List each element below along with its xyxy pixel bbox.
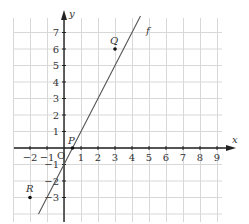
x-axis-label: x bbox=[232, 134, 238, 145]
x-tick-label: 8 bbox=[197, 152, 203, 163]
point-p-label: P bbox=[67, 135, 75, 146]
y-tick-label: 2 bbox=[53, 110, 59, 121]
point-q bbox=[113, 47, 117, 51]
origin-label: O bbox=[57, 150, 65, 161]
x-tick-label: 6 bbox=[163, 152, 169, 163]
x-tick-label: 7 bbox=[180, 152, 186, 163]
x-tick-label: 2 bbox=[95, 152, 101, 163]
y-tick-label: −2 bbox=[44, 176, 59, 187]
y-tick-label: 5 bbox=[53, 60, 59, 71]
x-tick-label: 9 bbox=[214, 152, 220, 163]
x-axis-arrow-icon bbox=[226, 145, 236, 151]
point-p bbox=[71, 146, 75, 150]
y-tick-label: 4 bbox=[53, 77, 59, 88]
coordinate-plane: −2−11234567897654321−1−2−3 f Q P R x y O bbox=[0, 0, 249, 224]
y-tick-label: 7 bbox=[53, 27, 59, 38]
x-tick-label: −2 bbox=[23, 152, 38, 163]
y-tick-label: 1 bbox=[53, 126, 59, 137]
point-q-label: Q bbox=[110, 35, 118, 46]
x-tick-label: 4 bbox=[129, 152, 135, 163]
x-tick-label: 3 bbox=[112, 152, 118, 163]
point-r bbox=[28, 196, 32, 200]
y-axis-label: y bbox=[68, 8, 75, 19]
y-tick-label: 6 bbox=[53, 44, 59, 55]
y-tick-label: 3 bbox=[53, 93, 59, 104]
x-tick-label: 1 bbox=[78, 152, 84, 163]
x-tick-label: 5 bbox=[146, 152, 152, 163]
line-f-label: f bbox=[145, 25, 152, 36]
point-r-label: R bbox=[25, 183, 34, 194]
y-axis-arrow-icon bbox=[61, 10, 67, 20]
